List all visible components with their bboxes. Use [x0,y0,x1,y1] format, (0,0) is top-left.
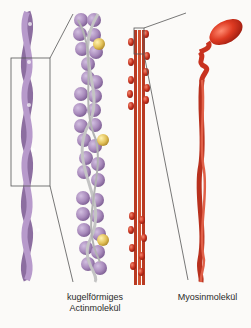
actin-label-line1: kugelförmiges [60,292,130,303]
myosin-molecule [199,13,247,282]
troponin-molecule [97,234,109,246]
actin-label: kugelförmiges Actinmolekül [60,292,130,314]
diagram-canvas [0,0,251,328]
actin-filament-strand [24,12,40,280]
actin-globule-chain [73,13,109,282]
troponin-molecule [93,38,105,50]
actin-label-line2: Actinmolekül [60,303,130,314]
actin-zoom-indicator [11,14,73,282]
myosin-label-text: Myosinmolekül [170,292,245,303]
troponin-molecule [97,134,109,146]
myosin-label: Myosinmolekül [170,292,245,303]
